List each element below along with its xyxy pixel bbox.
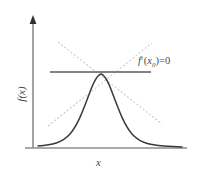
y-axis xyxy=(30,15,37,148)
diagonal-rising-guide-line xyxy=(48,43,152,126)
derivative-maximum-diagram: f(x) x f'(x0)=0 xyxy=(0,0,202,177)
plot-canvas xyxy=(0,0,202,177)
bell-curve-path xyxy=(38,74,182,147)
up-arrow-icon xyxy=(30,15,37,24)
diagonal-falling-guide-line xyxy=(58,42,162,124)
